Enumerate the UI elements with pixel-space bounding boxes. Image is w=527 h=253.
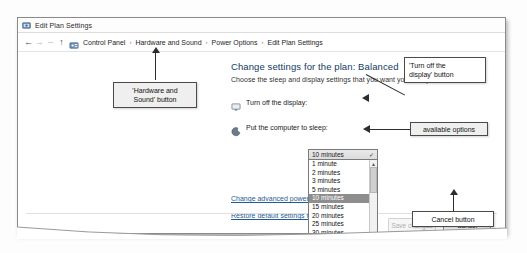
breadcrumb-item-control-panel[interactable]: Control Panel [82, 39, 126, 46]
dropdown-option[interactable]: 20 minutes [309, 212, 369, 221]
dropdown-option[interactable]: 1 minute [309, 160, 369, 169]
turn-off-display-dropdown-list[interactable]: 1 minute 2 minutes 3 minutes 5 minutes 1… [308, 160, 378, 234]
dropdown-option[interactable]: 25 minutes [309, 220, 369, 229]
power-plan-icon [22, 21, 31, 30]
forward-arrow-icon[interactable]: → [34, 38, 45, 47]
dropdown-option[interactable]: 5 minutes [309, 186, 369, 195]
leader-line-cancel-button [453, 193, 454, 211]
setting-label-put-computer-to-sleep: Put the computer to sleep: [246, 124, 328, 131]
turn-off-display-combobox[interactable]: 10 minutes ✓ [308, 149, 378, 160]
arrowhead-available-options [363, 125, 370, 133]
breadcrumb-item-power-options[interactable]: Power Options [211, 39, 259, 46]
dropdown-options: 1 minute 2 minutes 3 minutes 5 minutes 1… [309, 160, 369, 234]
up-arrow-icon[interactable]: ↑ [56, 38, 67, 47]
history-dash-icon[interactable]: – [45, 38, 56, 47]
breadcrumb-item-hardware-and-sound[interactable]: Hardware and Sound [134, 39, 202, 46]
setting-row-put-computer-to-sleep: Put the computer to sleep: [231, 122, 328, 133]
chevron-down-icon[interactable]: ✓ [366, 151, 377, 158]
dropdown-option[interactable]: 15 minutes [309, 203, 369, 212]
leader-line-available-options [368, 129, 412, 130]
setting-label-turn-off-display: Turn off the display: [246, 99, 307, 106]
arrowhead-turn-off-display [362, 94, 369, 102]
window-title: Edit Plan Settings [35, 22, 92, 29]
arrowhead-hardware-and-sound [152, 47, 160, 53]
callout-cancel-button: Cancel button [412, 211, 494, 227]
sleep-moon-icon [231, 123, 241, 133]
dropdown-option[interactable]: 30 minutes [309, 229, 369, 234]
setting-row-turn-off-display: Turn off the display: [231, 97, 328, 108]
breadcrumb-separator: › [259, 39, 267, 45]
leader-line-hardware-and-sound [155, 50, 156, 80]
back-arrow-icon[interactable]: ← [23, 38, 34, 47]
breadcrumb: Control Panel › Hardware and Sound › Pow… [82, 39, 324, 46]
breadcrumb-separator: › [203, 39, 211, 45]
arrowhead-cancel-button [450, 189, 458, 195]
callout-hardware-and-sound: 'Hardware and Sound' button [113, 82, 197, 108]
scrollbar-thumb[interactable] [370, 167, 377, 193]
dropdown-scrollbar[interactable]: ▲ [369, 160, 377, 234]
dropdown-option-selected[interactable]: 10 minutes [309, 194, 369, 203]
monitor-icon [231, 98, 241, 108]
dropdown-option[interactable]: 2 minutes [309, 169, 369, 178]
callout-turn-off-display: 'Turn off the display' button [404, 57, 486, 83]
settings-list: Turn off the display: Put the computer t… [231, 97, 328, 147]
address-bar: ← → – ↑ Control Panel › Hardware and Sou… [18, 33, 505, 52]
dropdown-option[interactable]: 3 minutes [309, 177, 369, 186]
control-panel-icon [68, 37, 80, 48]
scroll-up-arrow-icon[interactable]: ▲ [370, 160, 377, 167]
breadcrumb-item-edit-plan-settings[interactable]: Edit Plan Settings [267, 39, 324, 46]
breadcrumb-separator: › [126, 39, 134, 45]
combobox-selected-value: 10 minutes [309, 151, 366, 158]
window-title-bar: Edit Plan Settings [18, 18, 505, 33]
callout-available-options: available options [410, 122, 488, 136]
